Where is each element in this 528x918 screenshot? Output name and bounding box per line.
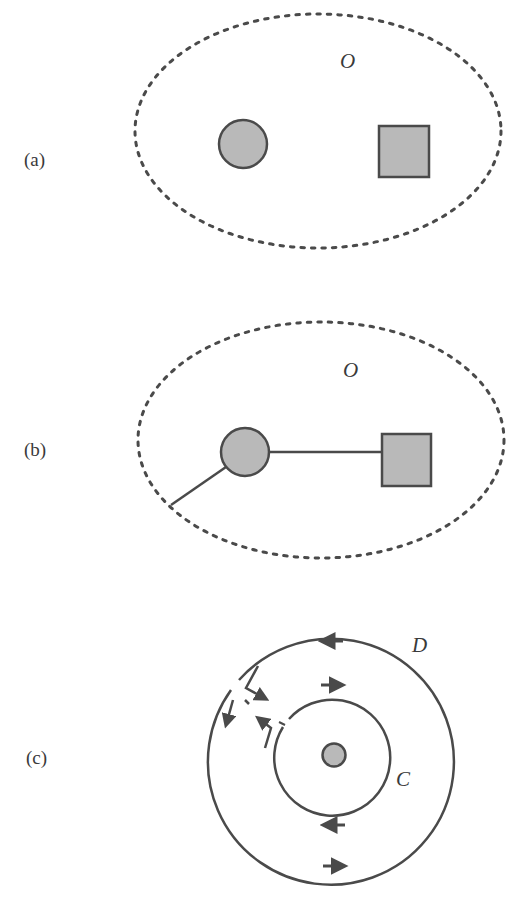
region-o-label-a: O bbox=[340, 49, 355, 73]
inner-circle-label-c: C bbox=[396, 767, 411, 791]
cut-path-outbound-arrow-icon bbox=[258, 718, 271, 748]
outgoing-line bbox=[171, 467, 226, 505]
gray-square-b bbox=[382, 434, 431, 486]
outer-circle-label-d: D bbox=[411, 633, 427, 657]
panel-c-label: (c) bbox=[26, 747, 47, 769]
region-o-label-b: O bbox=[343, 358, 358, 382]
panel-b-label: (b) bbox=[24, 439, 46, 461]
cut-path-small-dash bbox=[245, 700, 249, 704]
gray-circle-a bbox=[219, 120, 267, 168]
dotted-ellipse-region-a bbox=[135, 14, 501, 248]
panel-c: (c) D C bbox=[26, 633, 454, 885]
panel-a-label: (a) bbox=[24, 149, 45, 171]
panel-a: (a) O bbox=[24, 14, 501, 248]
gray-circle-b bbox=[221, 428, 269, 476]
gray-square-a bbox=[379, 126, 429, 177]
dotted-ellipse-region-b bbox=[138, 322, 504, 558]
panel-b: (b) O bbox=[24, 322, 504, 558]
diagram-canvas: (a) O (b) O (c) D C bbox=[0, 0, 528, 918]
center-dot bbox=[323, 744, 346, 767]
cut-path-inner-tick bbox=[279, 722, 285, 725]
cut-path-outer-down-arrow-icon bbox=[226, 700, 233, 725]
